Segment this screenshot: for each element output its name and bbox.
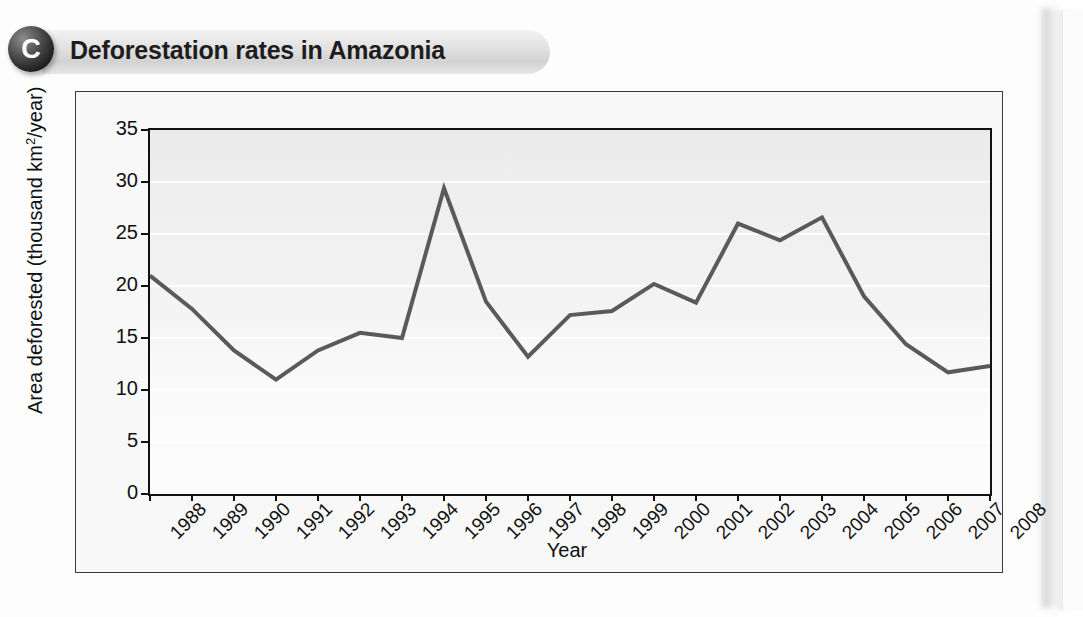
y-axis-tick [141, 389, 148, 391]
x-axis-tick-label: 1989 [208, 499, 251, 542]
x-axis-tick-label: 1998 [586, 499, 629, 542]
x-axis-tick-label: 2004 [838, 499, 881, 542]
x-axis-title: Year [0, 539, 1080, 562]
y-axis-tick-label: 10 [116, 378, 138, 398]
y-axis-tick [141, 337, 148, 339]
x-axis-tick-label: 1996 [502, 499, 545, 542]
x-axis-tick-label: 2006 [922, 499, 965, 542]
y-axis-tick-label: 20 [116, 274, 138, 294]
y-axis-title: Area deforested (thousand km2/year) [23, 40, 48, 460]
chart-plot-area [148, 128, 992, 496]
x-axis-tick-label: 2005 [880, 499, 923, 542]
x-axis-tick-label: 1988 [166, 499, 209, 542]
y-axis-tick [141, 493, 148, 495]
y-axis-tick [141, 129, 148, 131]
y-axis-tick-labels: 05101520253035 [98, 128, 138, 492]
x-axis-tick-label: 1992 [334, 499, 377, 542]
x-axis-tick-label: 2000 [670, 499, 713, 542]
y-axis-title-superscript: 2 [23, 138, 38, 145]
x-axis-tick-label: 1999 [628, 499, 671, 542]
x-axis-tick-label: 1990 [250, 499, 293, 542]
y-axis-tick [141, 233, 148, 235]
x-axis-tick-label: 2003 [796, 499, 839, 542]
y-axis-tick-label: 35 [116, 118, 138, 138]
y-axis-tick [141, 285, 148, 287]
y-axis-tick [141, 181, 148, 183]
x-axis-tick-label: 1991 [292, 499, 335, 542]
y-axis-tick [141, 441, 148, 443]
x-axis-tick-label: 1997 [544, 499, 587, 542]
x-axis-tick-label: 2008 [1006, 499, 1049, 542]
y-axis-tick-label: 5 [127, 430, 138, 450]
x-axis-tick-label: 2002 [754, 499, 797, 542]
x-axis-tick-label: 1995 [460, 499, 503, 542]
x-axis-tick-label: 1994 [418, 499, 461, 542]
y-axis-tick-label: 30 [116, 170, 138, 190]
page-title: Deforestation rates in Amazonia [70, 36, 445, 65]
x-axis-tick-label: 1993 [376, 499, 419, 542]
chart-line-series [150, 130, 990, 494]
x-axis-title-text: Year [547, 539, 587, 561]
x-axis-tick-label: 2007 [964, 499, 1007, 542]
y-axis-tick-label: 15 [116, 326, 138, 346]
x-axis-tick-label: 2001 [712, 499, 755, 542]
y-axis-tick-label: 25 [116, 222, 138, 242]
